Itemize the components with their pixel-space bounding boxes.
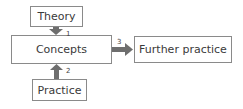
edge-label-2: 2 bbox=[66, 67, 70, 75]
arrow-practice-to-concepts bbox=[50, 64, 63, 79]
node-concepts-label: Concepts bbox=[36, 43, 87, 56]
node-theory-label: Theory bbox=[37, 10, 75, 23]
edge-label-1: 1 bbox=[66, 30, 70, 38]
edge-label-3: 3 bbox=[117, 38, 121, 46]
node-practice-label: Practice bbox=[38, 84, 82, 97]
arrow-theory-to-concepts bbox=[49, 27, 63, 35]
node-further-practice: Further practice bbox=[134, 36, 232, 63]
node-practice: Practice bbox=[32, 79, 87, 101]
node-theory: Theory bbox=[30, 6, 83, 27]
node-concepts: Concepts bbox=[11, 35, 112, 64]
node-further-label: Further practice bbox=[139, 43, 227, 56]
arrow-concepts-to-further bbox=[112, 43, 133, 56]
